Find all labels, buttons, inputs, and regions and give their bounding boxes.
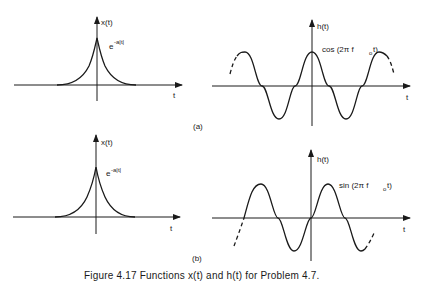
x-axis-label: t bbox=[403, 225, 406, 234]
curve-label-exponent: -a|t| bbox=[114, 39, 125, 45]
curve-label: cos (2π f bbox=[322, 45, 355, 54]
sine-curve-dashed-left bbox=[234, 218, 244, 246]
y-axis-label: x(t) bbox=[101, 138, 113, 147]
exp-decay-curve bbox=[55, 167, 135, 217]
figure-caption: Figure 4.17 Functions x(t) and h(t) for … bbox=[84, 270, 320, 281]
curve-label: sin (2π f bbox=[339, 181, 369, 190]
panel-b-right-plot: h(t) t sin (2π f o t) bbox=[212, 150, 410, 261]
x-axis-label: t bbox=[173, 91, 176, 100]
panel-a-left-plot: x(t) t e -a|t| bbox=[14, 17, 182, 101]
y-axis-label: h(t) bbox=[317, 22, 329, 31]
sine-curve-dashed-right bbox=[365, 233, 374, 249]
curve-label-exponent: -a|t| bbox=[111, 167, 122, 173]
cosine-curve-dashed-left bbox=[230, 56, 237, 74]
panel-label-b: (b) bbox=[192, 254, 202, 263]
y-axis-label: h(t) bbox=[317, 155, 329, 164]
cosine-curve-dashed-right bbox=[387, 56, 394, 74]
x-axis-label: t bbox=[406, 93, 409, 102]
panel-a-right-plot: h(t) t cos (2π f o t) bbox=[212, 20, 410, 126]
curve-label-tail: t) bbox=[387, 181, 392, 190]
x-axis-label: t bbox=[170, 224, 173, 233]
panel-b-left-plot: x(t) t e -a|t| bbox=[13, 135, 180, 234]
y-axis-label: x(t) bbox=[101, 18, 113, 27]
panel-label-a: (a) bbox=[193, 122, 203, 131]
curve-label-tail: t) bbox=[373, 45, 378, 54]
